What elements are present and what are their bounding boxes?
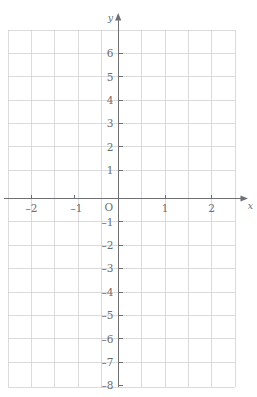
coordinate-grid-figure: –2 –1 1 2 6 5 4 3 2 1 –1 –2 –3 –4 –5 –6 … [0,0,257,397]
y-tick-label: –2 [102,239,114,251]
x-tick-label: –1 [71,202,83,214]
y-tick-label: 2 [107,141,114,153]
y-tick-label: –6 [102,333,114,345]
y-tick-label: –4 [102,286,114,298]
x-tick-label: 1 [162,202,169,214]
y-axis-arrow-icon [115,13,121,21]
y-tick-label: 3 [107,117,114,129]
y-tick-label: –7 [102,356,114,368]
y-tick-label: –3 [102,262,114,274]
x-tick-label: 2 [208,202,215,214]
x-axis-label: x [248,200,254,211]
y-tick-label: 4 [107,94,114,106]
y-tick-label: 5 [107,71,114,83]
x-tick-label: –2 [25,202,37,214]
origin-label: O [104,201,113,213]
y-tick-label: 6 [107,47,114,59]
y-tick-labels: 6 5 4 3 2 1 –1 –2 –3 –4 –5 –6 –7 –8 [102,47,114,391]
x-tick-labels: –2 –1 1 2 [25,202,215,214]
y-axis-label: y [107,12,114,23]
coordinate-plane-svg: –2 –1 1 2 6 5 4 3 2 1 –1 –2 –3 –4 –5 –6 … [0,0,257,397]
y-tick-label: 1 [107,164,114,176]
y-tick-label: –8 [102,379,114,391]
grid-lines [8,30,235,387]
tick-marks [31,53,211,385]
y-tick-label: –5 [102,309,114,321]
y-tick-label: –1 [102,216,114,228]
